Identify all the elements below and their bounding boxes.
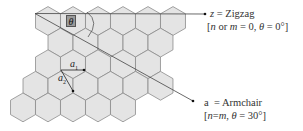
- a2-label: a2: [58, 73, 66, 85]
- armchair-label: a = Armchair: [204, 98, 262, 109]
- theta-label-box: θ: [66, 15, 76, 27]
- a2-arrow-dot: [72, 90, 75, 93]
- armchair-arrow-dot: [192, 100, 195, 103]
- a1-label: a1: [70, 59, 78, 71]
- hexagon-cells: [11, 7, 186, 122]
- theta-symbol: θ: [67, 16, 75, 27]
- zigzag-label: z = Zigzag: [210, 9, 254, 20]
- chirality-diagram: θ a1 a2 z = Zigzag [n or m = 0, θ = 0°] …: [0, 0, 303, 131]
- armchair-condition: [n=m, θ = 30°]: [204, 111, 266, 122]
- zigzag-arrow-dot: [204, 13, 207, 16]
- a1-arrow-dot: [83, 69, 86, 72]
- zigzag-direction-line: [35, 14, 205, 15]
- zigzag-condition: [n or m = 0, θ = 0°]: [207, 22, 288, 33]
